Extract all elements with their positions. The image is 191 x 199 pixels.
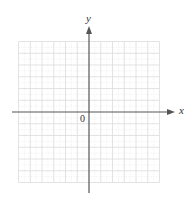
x-axis-label: x bbox=[179, 105, 184, 116]
coordinate-plane: y x 0 bbox=[0, 0, 191, 199]
x-axis-arrow-icon bbox=[167, 109, 175, 115]
y-axis bbox=[86, 26, 92, 193]
coordinate-grid-svg bbox=[0, 0, 191, 199]
y-axis-label: y bbox=[86, 13, 91, 24]
y-axis-arrow-icon bbox=[86, 26, 92, 34]
origin-label: 0 bbox=[80, 114, 85, 124]
